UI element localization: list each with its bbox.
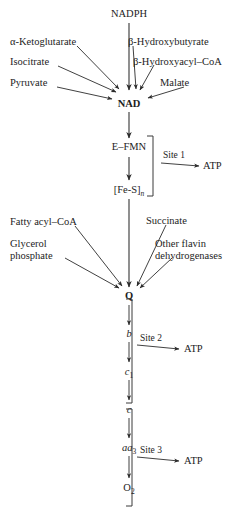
substrate-isocitrate: Isocitrate bbox=[10, 56, 49, 68]
node-cytochrome-b: b bbox=[126, 328, 131, 340]
substrate-glycerol-phosphate-line1: Glycerol bbox=[10, 238, 47, 250]
node-nadph: NADPH bbox=[111, 8, 147, 20]
node-q: Q bbox=[125, 290, 133, 302]
arrow-site-3-to-atp bbox=[137, 457, 179, 461]
node-nad: NAD bbox=[118, 98, 141, 110]
node-fe-s-subscript: n bbox=[141, 189, 145, 198]
arrow-site-1-to-atp bbox=[161, 163, 199, 166]
substrate-fatty-acyl-coa: Fatty acyl–CoA bbox=[10, 216, 77, 228]
arrow-malate-to-nad bbox=[148, 87, 184, 98]
bracket-site-2 bbox=[126, 299, 132, 403]
bracket-site-1 bbox=[147, 136, 153, 196]
node-cytochrome-aa3-main: aa bbox=[122, 442, 133, 453]
arrow-hydroxybutyrate-to-nad bbox=[133, 46, 136, 89]
arrow-hydroxyacyl-coa-to-nad bbox=[140, 65, 154, 90]
site-3-atp: ATP bbox=[184, 455, 203, 467]
node-cytochrome-aa3-subscript: 3 bbox=[132, 447, 136, 456]
substrate-malate: Malate bbox=[160, 77, 189, 89]
substrate-beta-hydroxybutyrate: β-Hydroxybutyrate bbox=[128, 36, 209, 48]
site-1-atp: ATP bbox=[203, 160, 222, 172]
node-e-fmn: E–FMN bbox=[112, 141, 146, 153]
substrate-glycerol-phosphate-line2: phosphate bbox=[10, 250, 53, 262]
site-3-label: Site 3 bbox=[140, 445, 162, 455]
node-o2-subscript: 2 bbox=[131, 487, 135, 496]
arrow-isocitrate-to-nad bbox=[58, 66, 116, 92]
node-cytochrome-c1: c1 bbox=[125, 366, 133, 382]
arrow-pyruvate-to-nad bbox=[57, 87, 112, 99]
node-o2-main: O bbox=[123, 482, 131, 493]
etc-diagram: NADPH NAD E–FMN [Fe-S]n Q b c1 c aa3 O2 … bbox=[0, 0, 247, 517]
site-2-label: Site 2 bbox=[140, 333, 162, 343]
substrate-other-flavin-line1: Other flavin bbox=[155, 238, 206, 250]
substrate-pyruvate: Pyruvate bbox=[10, 77, 47, 89]
arrow-glycerol-phosphate-to-q bbox=[65, 258, 119, 288]
arrow-other-flavin-dehydrogenases-to-q bbox=[140, 258, 172, 288]
node-o2: O2 bbox=[123, 482, 134, 498]
site-1-label: Site 1 bbox=[163, 150, 185, 160]
node-fe-s: [Fe-S]n bbox=[114, 184, 145, 200]
substrate-alpha-ketoglutarate: α-Ketoglutarate bbox=[10, 36, 76, 48]
substrate-beta-hydroxyacyl-coa: β-Hydroxyacyl–CoA bbox=[133, 56, 222, 68]
node-cytochrome-aa3: aa3 bbox=[122, 442, 136, 458]
arrow-ketoglutarate-to-nad bbox=[77, 46, 119, 89]
site-2-atp: ATP bbox=[184, 343, 203, 355]
substrate-other-flavin-line2: dehydrogenases bbox=[155, 250, 222, 262]
substrate-succinate: Succinate bbox=[146, 215, 187, 227]
arrow-site-2-to-atp bbox=[137, 345, 179, 349]
arrow-fatty-acyl-coa-to-q bbox=[75, 226, 122, 286]
node-cytochrome-c: c bbox=[127, 404, 132, 416]
node-fe-s-main: [Fe-S] bbox=[114, 184, 141, 195]
node-cytochrome-c1-subscript: 1 bbox=[129, 371, 133, 380]
